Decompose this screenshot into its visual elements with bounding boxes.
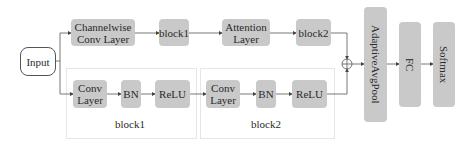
- softmax-node: Softmax: [433, 22, 455, 107]
- relu2-label: ReLU: [296, 88, 323, 100]
- conv1-label-line1: Conv: [78, 82, 102, 94]
- channelwise-conv-layer-node: Channelwise Conv Layer: [71, 19, 135, 46]
- conv-layer-1-node: Conv Layer: [73, 80, 107, 108]
- attention-label-line1: Attention: [225, 21, 267, 33]
- adaptive-avg-pool-node: AdaptiveAvgPool: [364, 7, 387, 122]
- bn-2-node: BN: [256, 80, 276, 108]
- relu-1-node: ReLU: [155, 80, 190, 108]
- conv1-label-line2: Layer: [77, 94, 103, 106]
- softmax-label: Softmax: [438, 46, 450, 83]
- input-node: Input: [20, 47, 56, 76]
- bn-1-node: BN: [121, 80, 141, 108]
- block2-node: block2: [296, 19, 331, 46]
- block1-node: block1: [159, 19, 189, 46]
- block1-node-label: block1: [159, 27, 189, 39]
- fc-node: FC: [399, 22, 421, 107]
- conv2-label-line1: Conv: [211, 82, 235, 94]
- channelwise-conv-label-line1: Channelwise: [75, 21, 132, 33]
- attention-label-line2: Layer: [233, 33, 259, 45]
- input-label: Input: [26, 56, 49, 68]
- channelwise-conv-label-line2: Conv Layer: [77, 33, 129, 45]
- conv2-label-line2: Layer: [210, 94, 236, 106]
- block2-node-label: block2: [299, 27, 329, 39]
- relu1-label: ReLU: [159, 88, 186, 100]
- attention-layer-node: Attention Layer: [222, 19, 270, 46]
- bn2-label: BN: [258, 88, 273, 100]
- relu-2-node: ReLU: [292, 80, 327, 108]
- conv-layer-2-node: Conv Layer: [206, 80, 240, 108]
- fc-label: FC: [404, 58, 416, 71]
- bn1-label: BN: [123, 88, 138, 100]
- adaptive-avg-pool-label: AdaptiveAvgPool: [370, 25, 382, 104]
